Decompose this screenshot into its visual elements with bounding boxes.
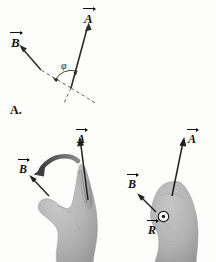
- top-diagram-graphics: [19, 22, 97, 104]
- left-hand-graphics: [29, 137, 97, 262]
- vector-a-label-left-hand: A: [77, 133, 85, 145]
- figure-graphics: [0, 0, 216, 262]
- vector-b-arrow-left-hand: [29, 175, 49, 196]
- figure-right-hand-rule: A B φ A. A B A B R: [0, 0, 216, 262]
- vector-b-label-top: B: [11, 36, 20, 49]
- vector-b-arrow-top: [19, 45, 41, 70]
- dashed-line-a-extension: [64, 88, 71, 103]
- vector-a-arrow-top: [71, 22, 92, 88]
- dashed-line-b-extension: [71, 88, 97, 104]
- vector-a-label-right-hand: A: [188, 133, 196, 145]
- vector-r-label-right-hand: R: [148, 224, 156, 236]
- out-of-page-symbol: [158, 211, 168, 221]
- vector-b-label-left-hand: B: [19, 163, 27, 175]
- vector-b-label-right-hand: B: [128, 178, 136, 190]
- part-label: A.: [10, 104, 22, 116]
- angle-label-phi: φ: [61, 61, 67, 71]
- right-hand-graphics: [137, 137, 198, 262]
- curved-rotation-arrow: [34, 156, 79, 176]
- vector-a-label-top: A: [84, 12, 93, 25]
